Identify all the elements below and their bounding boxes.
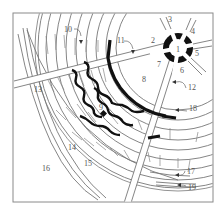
label-18: 18 — [189, 104, 197, 113]
label-17: 17 — [187, 167, 195, 176]
label-14: 14 — [68, 143, 76, 152]
label-4: 4 — [191, 27, 195, 36]
label-13: 13 — [34, 85, 42, 94]
label-1: 1 — [176, 45, 180, 54]
label-10: 10 — [64, 25, 72, 34]
thick-bar-18 — [162, 116, 176, 118]
label-19: 19 — [188, 183, 196, 192]
label-16: 16 — [42, 164, 50, 173]
label-3: 3 — [168, 15, 172, 24]
label-7: 7 — [157, 60, 161, 69]
label-5: 5 — [195, 49, 199, 58]
label-6: 6 — [180, 66, 184, 75]
label-11: 11 — [117, 36, 125, 45]
label-9: 9 — [99, 103, 103, 112]
label-12: 12 — [188, 83, 196, 92]
label-2: 2 — [151, 36, 155, 45]
radial-diagram: 1 2 3 4 5 6 7 8 9 10 11 12 13 14 15 16 1… — [0, 0, 222, 211]
label-15: 15 — [84, 159, 92, 168]
label-8: 8 — [142, 75, 146, 84]
